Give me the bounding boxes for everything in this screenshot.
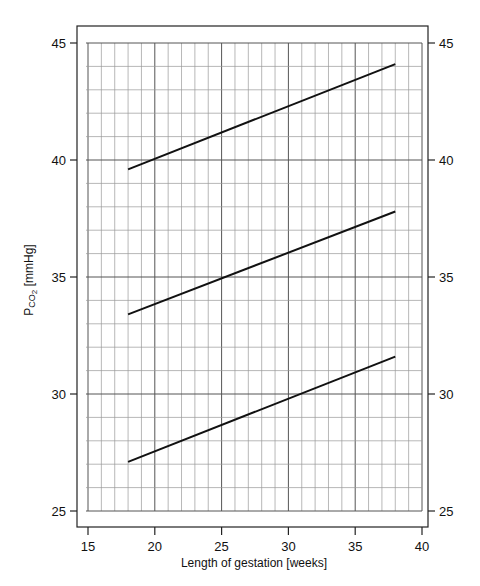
y-tick-label-left: 30: [52, 387, 66, 402]
y-axis-left: 2530354045: [52, 36, 77, 519]
y-axis-right: 2530354045: [428, 36, 453, 519]
y-axis-title: PCO2 [mmHg]: [22, 244, 39, 315]
x-tick-label: 25: [214, 539, 228, 554]
x-axis: 152025303540: [81, 527, 429, 554]
x-tick-label: 20: [148, 539, 162, 554]
y-tick-label-right: 35: [439, 270, 453, 285]
x-axis-title: Length of gestation [weeks]: [181, 556, 327, 570]
y-tick-label-left: 35: [52, 270, 66, 285]
chart-canvas: 2530354045 2530354045 152025303540 Lengt…: [0, 0, 480, 586]
x-tick-label: 15: [81, 539, 95, 554]
y-tick-label-right: 25: [439, 504, 453, 519]
y-tick-label-left: 25: [52, 504, 66, 519]
x-tick-label: 40: [415, 539, 429, 554]
x-tick-label: 35: [348, 539, 362, 554]
y-tick-label-right: 45: [439, 36, 453, 51]
y-tick-label-right: 30: [439, 387, 453, 402]
y-tick-label-left: 45: [52, 36, 66, 51]
y-tick-label-left: 40: [52, 153, 66, 168]
grid: [86, 43, 422, 511]
y-tick-label-right: 40: [439, 153, 453, 168]
x-tick-label: 30: [281, 539, 295, 554]
